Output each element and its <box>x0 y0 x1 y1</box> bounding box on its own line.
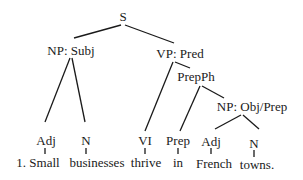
node-n-1: N <box>81 134 90 148</box>
word-towns: towns. <box>240 158 274 172</box>
node-adj-1: Adj <box>36 134 56 148</box>
node-adj-2: Adj <box>201 135 221 149</box>
edge-s-vp <box>125 25 174 43</box>
edge-prepph-prep <box>180 86 200 131</box>
node-np-subj: NP: Subj <box>47 44 94 58</box>
word-french: French <box>196 157 232 171</box>
word-small: 1. Small <box>16 156 59 170</box>
word-businesses: businesses <box>70 156 125 170</box>
word-in: in <box>173 156 183 170</box>
tree-edges <box>0 0 303 180</box>
node-s: S <box>119 10 126 24</box>
edge-np-adj <box>45 58 70 122</box>
node-prepph: PrepPh <box>177 70 215 84</box>
node-vp-pred: VP: Pred <box>156 47 203 61</box>
node-np-obj-prep: NP: Obj/Prep <box>217 100 287 114</box>
edge-vp-prepph <box>175 62 190 68</box>
edge-np-n <box>72 58 85 122</box>
node-vi: VI <box>138 134 152 148</box>
edge-s-np <box>74 25 121 38</box>
node-prep: Prep <box>166 134 190 148</box>
edge-prepph-npobj <box>202 86 224 98</box>
edge-npobj-adj <box>215 115 241 129</box>
edge-vp-vi <box>145 62 173 131</box>
word-thrive: thrive <box>131 156 161 170</box>
node-n-2: N <box>249 137 258 151</box>
edge-npobj-n <box>243 115 259 129</box>
